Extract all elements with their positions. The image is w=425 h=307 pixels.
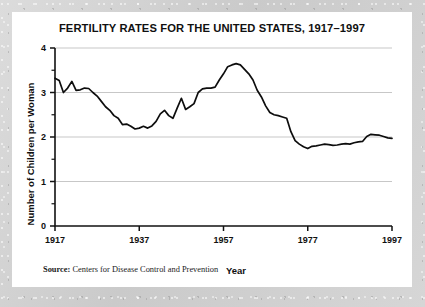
x-axis-title: Year	[226, 265, 246, 276]
gridlines-group	[55, 48, 392, 182]
chart-card: FERTILITY RATES FOR THE UNITED STATES, 1…	[12, 12, 412, 287]
y-tick-label-4: 4	[41, 43, 46, 53]
y-tick-label-2: 2	[41, 132, 46, 142]
source-note: Source: Centers for Disease Control and …	[43, 265, 218, 274]
axis-ticks-group	[50, 48, 392, 231]
x-tick-label-1997: 1997	[382, 235, 402, 245]
fertility-rate-line	[55, 64, 392, 149]
x-axis-tick-labels: 19171937195719771997	[45, 235, 402, 245]
x-tick-label-1937: 1937	[129, 235, 149, 245]
y-tick-label-1: 1	[41, 177, 46, 187]
x-tick-label-1957: 1957	[213, 235, 233, 245]
x-tick-label-1917: 1917	[45, 235, 65, 245]
data-series-group	[55, 64, 392, 149]
y-axis-tick-labels: 01234	[41, 43, 46, 231]
source-label: Source:	[43, 265, 70, 274]
fertility-rate-line-chart: 01234 19171937195719771997 Year Number o…	[12, 12, 412, 287]
source-text: Centers for Disease Control and Preventi…	[72, 265, 218, 274]
x-tick-label-1977: 1977	[298, 235, 318, 245]
y-tick-label-0: 0	[41, 221, 46, 231]
y-axis-title: Number of Children per Woman	[25, 82, 36, 225]
y-tick-label-3: 3	[41, 88, 46, 98]
chart-plot-area: 01234 19171937195719771997 Year Number o…	[12, 12, 412, 287]
